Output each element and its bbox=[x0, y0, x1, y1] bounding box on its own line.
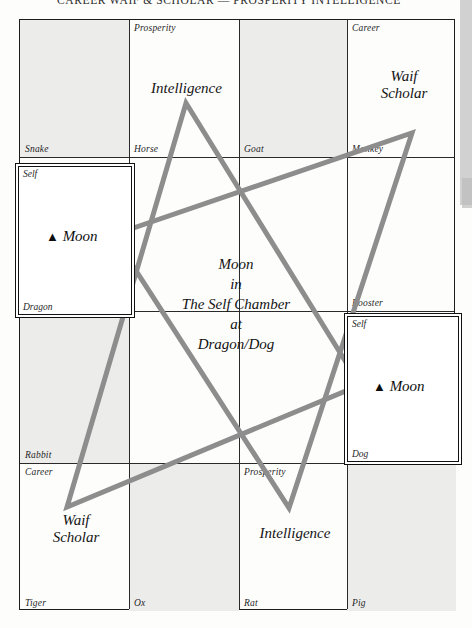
cell-goat bbox=[239, 20, 347, 157]
caption-line-5: Dragon/Dog bbox=[141, 335, 331, 355]
caption-line-1: Moon bbox=[141, 255, 331, 275]
caption-line-4: at bbox=[141, 315, 331, 335]
moon-marker-left: ▲ Moon bbox=[46, 228, 98, 245]
self-chamber-dog-palace-label: Self bbox=[352, 319, 366, 329]
caption-line-2: in bbox=[141, 275, 331, 295]
annotation-intelligence-top: Intelligence bbox=[134, 80, 239, 97]
annotation-intelligence-bottom: Intelligence bbox=[241, 525, 349, 542]
waif-bottom-line1: Waif bbox=[23, 512, 129, 529]
moon-label-right: Moon bbox=[390, 378, 425, 394]
center-caption: Moon in The Self Chamber at Dragon/Dog bbox=[141, 255, 331, 355]
running-header: CAREER WAIF & SCHOLAR — PROSPERITY INTEL… bbox=[0, 0, 458, 5]
moon-marker-right: ▲ Moon bbox=[373, 378, 425, 395]
moon-label-left: Moon bbox=[63, 228, 98, 244]
caption-line-3: The Self Chamber bbox=[141, 295, 331, 315]
waif-bottom-line2: Scholar bbox=[23, 529, 129, 546]
triangle-icon-right: ▲ bbox=[373, 379, 386, 394]
cell-snake bbox=[20, 20, 129, 157]
branch-label-pig: Pig bbox=[352, 598, 366, 606]
grid-hline-1 bbox=[20, 157, 454, 158]
chart-page: CAREER WAIF & SCHOLAR — PROSPERITY INTEL… bbox=[0, 0, 472, 628]
scan-edge-artifact-2 bbox=[462, 178, 472, 208]
waif-top-line2: Scholar bbox=[352, 85, 456, 102]
self-chamber-dragon-palace-label: Self bbox=[23, 169, 37, 179]
palace-label-career-bottom: Career bbox=[25, 467, 53, 477]
annotation-waif-scholar-bottom: Waif Scholar bbox=[23, 512, 129, 546]
scan-edge-artifact bbox=[460, 0, 472, 205]
self-chamber-dragon-branch-label: Dragon bbox=[23, 302, 53, 312]
branch-label-ox: Ox bbox=[134, 598, 145, 606]
branch-label-tiger: Tiger bbox=[25, 598, 46, 606]
branch-label-horse: Horse bbox=[134, 144, 158, 606]
triangle-icon-left: ▲ bbox=[46, 229, 59, 244]
palace-label-prosperity-top: Prosperity bbox=[134, 23, 176, 33]
waif-top-line1: Waif bbox=[352, 68, 456, 85]
palace-label-career-top: Career bbox=[352, 23, 380, 33]
palace-label-prosperity-bottom: Prosperity bbox=[244, 467, 286, 477]
branch-label-rat: Rat bbox=[244, 598, 258, 606]
annotation-waif-scholar-top: Waif Scholar bbox=[352, 68, 456, 102]
self-chamber-dog-branch-label: Dog bbox=[352, 449, 368, 459]
